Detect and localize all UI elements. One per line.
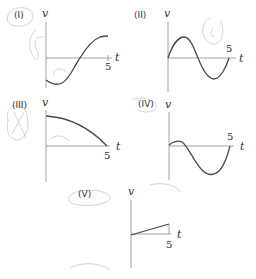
panel-label: (II): [134, 10, 146, 20]
curve: [46, 116, 107, 146]
x-axis-label: t: [239, 52, 244, 65]
panel-label: (IV): [138, 99, 154, 109]
x-tick-label: 5: [227, 131, 233, 142]
x-tick-label: 5: [104, 150, 110, 161]
panel-2: (II) v 5 t: [134, 7, 244, 92]
pencil-arc: [49, 136, 69, 141]
panel-label: (V): [78, 189, 91, 199]
y-axis-label: v: [128, 185, 135, 198]
x-tick-label: 5: [166, 239, 172, 250]
y-axis-label: v: [164, 7, 171, 20]
x-axis-label: t: [177, 228, 182, 241]
y-axis-label: v: [165, 98, 172, 111]
x-tick-label: 5: [105, 61, 111, 72]
x-axis-label: t: [115, 51, 120, 64]
y-axis-label: v: [42, 96, 49, 109]
x-axis-label: t: [240, 140, 245, 153]
panel-3: (III) v 5 t: [12, 96, 121, 182]
panel-label: (III): [12, 100, 27, 110]
graphs-figure: (I) v 5 t (II) v 5 t (III) v 5 t (IV) v …: [0, 0, 256, 279]
curve: [46, 36, 108, 84]
panel-label: (I): [14, 10, 24, 20]
x-axis-label: t: [116, 140, 121, 153]
pencil-annotations: [7, 8, 223, 270]
x-tick-label: 5: [226, 43, 232, 54]
curve: [131, 224, 169, 235]
y-axis-label: v: [42, 7, 49, 20]
panel-5: (V) v 5 t: [78, 185, 182, 268]
